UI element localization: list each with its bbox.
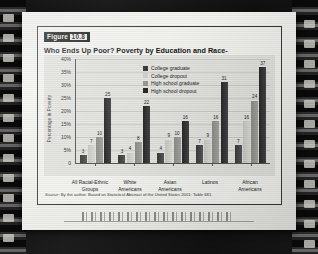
bar-item[interactable]: 31 <box>221 59 228 163</box>
bar-item[interactable]: 9 <box>204 59 211 163</box>
bar-value-label: 10 <box>175 132 180 137</box>
bar[interactable] <box>118 155 125 163</box>
legend-item[interactable]: College dropout <box>143 73 199 79</box>
bar-value-label: 7 <box>237 140 240 145</box>
source-text: By the author. Based on Statistical Abst… <box>61 192 213 197</box>
figure-number-badge: Figure 10.8 <box>44 32 90 42</box>
bar-item[interactable]: 10 <box>96 59 103 163</box>
x-axis-labels: All Racial-EthnicGroupsWhiteAmericansAsi… <box>70 179 270 193</box>
y-axis-ticks: 40%35%30%25%20%15%10%5%0 <box>53 59 73 163</box>
bar[interactable] <box>127 153 134 163</box>
legend-item[interactable]: High school dropout <box>143 88 199 94</box>
bar[interactable] <box>174 137 181 163</box>
photo-background: Figure 10.8 Who Ends Up Poor? Poverty by… <box>0 0 318 254</box>
bar[interactable] <box>243 121 250 163</box>
legend-item[interactable]: High school graduate <box>143 80 199 86</box>
bar-item[interactable]: 3 <box>118 59 125 163</box>
bar-value-label: 3 <box>82 150 85 155</box>
bar-item[interactable]: 25 <box>104 59 111 163</box>
y-tick-label: 15% <box>61 121 71 127</box>
legend-swatch-icon <box>143 73 148 78</box>
bar-value-label: 7 <box>90 140 93 145</box>
bar-item[interactable]: 24 <box>251 59 258 163</box>
x-axis-category-label: WhiteAmericans <box>110 179 150 193</box>
bar[interactable] <box>235 145 242 163</box>
figure-source-note: Source: By the author. Based on Statisti… <box>45 192 274 197</box>
legend-swatch-icon <box>143 66 148 71</box>
bar-value-label: 10 <box>97 132 102 137</box>
bar[interactable] <box>221 82 228 163</box>
chart-plot-area: Percentage in Poverty 40%35%30%25%20%15%… <box>44 55 275 176</box>
bar[interactable] <box>104 98 111 163</box>
legend-label: College dropout <box>151 73 187 79</box>
y-tick-label: 10% <box>61 134 71 140</box>
y-tick-label: 20% <box>61 108 71 114</box>
x-tick-mark <box>173 163 174 166</box>
bar-value-label: 16 <box>244 116 249 121</box>
y-tick-label: 25% <box>61 95 71 101</box>
legend-swatch-icon <box>143 88 148 93</box>
bar-value-label: 4 <box>159 147 162 152</box>
legend-swatch-icon <box>143 81 148 86</box>
y-tick-label: 35% <box>61 69 71 75</box>
bar[interactable] <box>80 155 87 163</box>
source-prefix: Source: <box>45 192 60 197</box>
bar-item[interactable]: 37 <box>259 59 266 163</box>
bar-item[interactable]: 3 <box>80 59 87 163</box>
bar-item[interactable]: 16 <box>212 59 219 163</box>
bar-value-label: 25 <box>105 93 110 98</box>
bar-item[interactable]: 4 <box>127 59 134 163</box>
page-rule <box>64 221 254 222</box>
figure-container: Figure 10.8 Who Ends Up Poor? Poverty by… <box>37 26 282 205</box>
bar[interactable] <box>143 106 150 163</box>
bar-value-label: 3 <box>121 150 124 155</box>
bar-group: 7162437 <box>231 59 270 163</box>
bar[interactable] <box>165 140 172 163</box>
bar-value-label: 4 <box>129 147 132 152</box>
bar-value-label: 22 <box>144 101 149 106</box>
legend-label: College graduate <box>151 65 190 71</box>
bar[interactable] <box>157 153 164 163</box>
legend-item[interactable]: College graduate <box>143 65 199 71</box>
y-axis-label-text: Percentage in Poverty <box>47 94 52 141</box>
x-tick-mark <box>95 163 96 166</box>
bar[interactable] <box>135 142 142 163</box>
x-axis-category-label: All Racial-EthnicGroups <box>70 179 110 193</box>
x-axis-category-label: AfricanAmericans <box>230 179 270 193</box>
y-tick-label: 40% <box>61 56 71 62</box>
x-axis-category-label: Latinos <box>190 179 230 193</box>
x-tick-mark <box>134 163 135 166</box>
bar-value-label: 9 <box>168 134 171 139</box>
chart-legend: College graduateCollege dropoutHigh scho… <box>140 63 202 97</box>
x-axis-category-label: AsianAmericans <box>150 179 190 193</box>
bar-value-label: 24 <box>252 95 257 100</box>
page-caption-blur <box>82 212 232 221</box>
legend-label: High school graduate <box>151 80 199 86</box>
bar-value-label: 16 <box>213 116 218 121</box>
bar[interactable] <box>196 145 203 163</box>
bar[interactable] <box>204 140 211 163</box>
bar-item[interactable]: 16 <box>243 59 250 163</box>
bar-item[interactable]: 7 <box>235 59 242 163</box>
y-tick-label: 0 <box>68 160 71 166</box>
x-tick-mark <box>251 163 252 166</box>
bar-value-label: 8 <box>137 137 140 142</box>
figure-badge-word: Figure <box>47 34 68 41</box>
textbook-page: Figure 10.8 Who Ends Up Poor? Poverty by… <box>22 12 296 230</box>
x-tick-mark <box>212 163 213 166</box>
bar[interactable] <box>259 67 266 163</box>
bar-value-label: 31 <box>222 77 227 82</box>
bar[interactable] <box>88 145 95 163</box>
y-tick-label: 5% <box>64 147 71 153</box>
bar-value-label: 9 <box>206 134 209 139</box>
bar[interactable] <box>182 121 189 163</box>
figure-badge-number: 10.8 <box>70 34 86 41</box>
bar-value-label: 7 <box>198 140 201 145</box>
bar-item[interactable]: 7 <box>88 59 95 163</box>
bar-value-label: 37 <box>260 62 265 67</box>
bar[interactable] <box>251 101 258 163</box>
bar[interactable] <box>212 121 219 163</box>
bar-group: 371025 <box>76 59 115 163</box>
bar[interactable] <box>96 137 103 163</box>
bar-value-label: 16 <box>183 116 188 121</box>
